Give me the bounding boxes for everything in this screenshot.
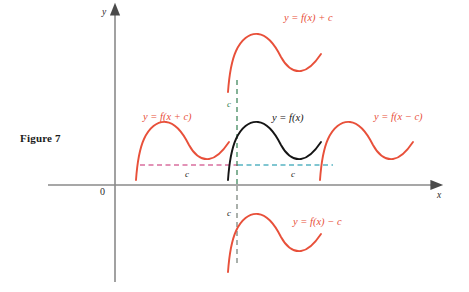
origin-label: 0 xyxy=(100,187,105,197)
curve-label-base: y = f(x) xyxy=(272,113,304,124)
curve-base xyxy=(228,122,321,180)
curve-label-shift-up: y = f(x) + c xyxy=(284,13,333,24)
offset-label-horizontal-right: c xyxy=(291,170,295,179)
figure-caption: Figure 7 xyxy=(20,133,61,144)
curve-shift-right xyxy=(320,122,413,180)
y-axis-label: y xyxy=(102,8,106,18)
figure-graphic xyxy=(0,0,469,292)
offset-label-vertical-up: c xyxy=(227,100,231,109)
curve-shift-left xyxy=(136,122,229,180)
curve-shift-up xyxy=(228,34,321,92)
offset-label-vertical-down: c xyxy=(227,209,231,218)
x-axis-label: x xyxy=(437,191,441,201)
curve-label-shift-down: y = f(x) − c xyxy=(293,217,342,228)
curve-label-shift-left: y = f(x + c) xyxy=(143,112,192,123)
figure-container: Figure 7 y x 0 y = f(x) + c y = f(x + c)… xyxy=(0,0,469,292)
curve-label-shift-right: y = f(x − c) xyxy=(374,112,423,123)
offset-label-horizontal-left: c xyxy=(185,170,189,179)
